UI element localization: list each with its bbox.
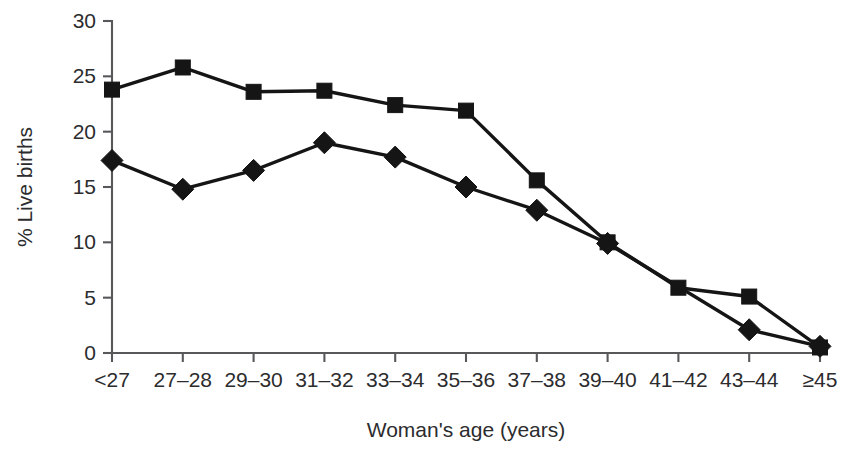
data-point-square (175, 60, 190, 75)
chart-figure: 051015202530 <2727–2829–3031–3233–3435–3… (0, 0, 853, 451)
y-tick-label: 15 (73, 175, 96, 198)
x-tick-label: 33–34 (366, 368, 425, 391)
data-point-square (317, 83, 332, 98)
y-tick-label: 30 (73, 9, 96, 32)
x-tick-label: ≥45 (803, 368, 838, 391)
x-tick-label: 39–40 (578, 368, 636, 391)
data-point-square (742, 289, 757, 304)
y-tick-label: 25 (73, 64, 96, 87)
x-tick-label: 35–36 (437, 368, 495, 391)
data-point-diamond (243, 159, 265, 181)
data-point-diamond (384, 146, 406, 168)
data-point-diamond (738, 319, 760, 341)
x-tick-label: <27 (94, 368, 130, 391)
x-tick-label: 31–32 (295, 368, 353, 391)
data-point-square (388, 98, 403, 113)
x-axis-title: Woman's age (years) (367, 418, 566, 441)
data-point-diamond (313, 132, 335, 154)
data-point-diamond (526, 199, 548, 221)
y-tick-label: 0 (84, 341, 96, 364)
y-tick-label: 20 (73, 120, 96, 143)
x-tick-label: 29–30 (224, 368, 282, 391)
data-point-square (529, 173, 544, 188)
x-tick-label: 43–44 (720, 368, 779, 391)
y-tick-label: 10 (73, 230, 96, 253)
x-axis: <2727–2829–3031–3233–3435–3637–3839–4041… (94, 353, 837, 391)
series-line-diamond (112, 143, 820, 347)
y-axis-title: % Live births (13, 127, 36, 247)
y-axis: 051015202530 (73, 9, 112, 364)
data-series-group (101, 60, 831, 357)
x-tick-label: 37–38 (508, 368, 566, 391)
data-point-square (459, 103, 474, 118)
data-point-square (105, 82, 120, 97)
y-tick-label: 5 (84, 286, 96, 309)
x-tick-label: 27–28 (154, 368, 212, 391)
data-point-diamond (172, 178, 194, 200)
line-chart: 051015202530 <2727–2829–3031–3233–3435–3… (0, 0, 853, 451)
x-tick-label: 41–42 (649, 368, 707, 391)
data-point-diamond (455, 176, 477, 198)
data-point-diamond (101, 149, 123, 171)
data-point-square (246, 84, 261, 99)
